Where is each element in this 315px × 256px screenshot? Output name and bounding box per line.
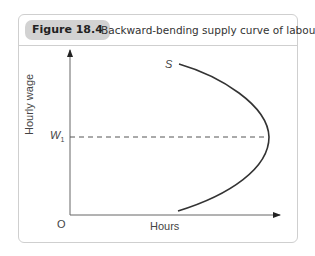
wage-w1-subscript: 1 bbox=[60, 136, 64, 143]
wage-w1-text: W bbox=[50, 129, 60, 141]
x-axis-label: Hours bbox=[150, 220, 179, 232]
supply-curve-label: S bbox=[165, 58, 172, 70]
chart-plot bbox=[0, 0, 315, 256]
wage-w1-label: W1 bbox=[50, 129, 64, 143]
y-axis-label: Hourly wage bbox=[23, 74, 35, 135]
origin-label: O bbox=[57, 218, 66, 230]
